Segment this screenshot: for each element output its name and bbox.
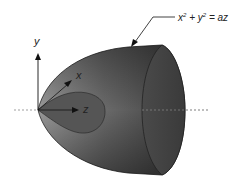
eq-exp-x: 2 xyxy=(183,12,186,18)
y-axis-arrow-icon xyxy=(35,53,41,60)
leader-arrow-icon xyxy=(131,39,138,47)
y-axis-label: y xyxy=(34,36,40,47)
equation-leader-line xyxy=(135,17,175,42)
eq-exp-y: 2 xyxy=(203,12,206,18)
x-axis-label: x xyxy=(76,70,82,81)
paraboloid-diagram xyxy=(0,0,250,183)
paraboloid-equation: x2 + y2 = az xyxy=(178,12,228,23)
z-axis-label: z xyxy=(83,104,89,115)
eq-plus: + xyxy=(189,12,195,23)
eq-rhs: az xyxy=(218,12,229,23)
eq-equals: = xyxy=(209,12,215,23)
